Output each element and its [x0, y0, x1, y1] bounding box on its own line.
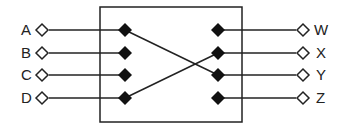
node-w-icon	[211, 23, 225, 37]
terminal-z-icon	[297, 92, 309, 104]
terminal-w-icon	[297, 24, 309, 36]
internal-left-nodes	[118, 23, 132, 105]
node-d-icon	[118, 91, 132, 105]
input-label-c: C	[21, 66, 32, 83]
output-label-z: Z	[316, 89, 325, 106]
node-b-icon	[118, 46, 132, 60]
output-label-y: Y	[316, 66, 326, 83]
terminal-b-icon	[36, 47, 48, 59]
internal-right-nodes	[211, 23, 225, 105]
input-wires	[49, 30, 125, 98]
cross-connections	[125, 30, 218, 98]
switch-box	[100, 7, 242, 122]
input-label-a: A	[21, 21, 31, 38]
terminal-c-icon	[36, 69, 48, 81]
node-a-icon	[118, 23, 132, 37]
output-wires	[218, 30, 296, 98]
terminal-y-icon	[297, 69, 309, 81]
terminal-x-icon	[297, 47, 309, 59]
output-label-x: X	[316, 44, 326, 61]
crossover-diagram: A B C D W X Y Z	[0, 0, 345, 128]
connection-d-to-x	[125, 53, 218, 98]
terminal-d-icon	[36, 92, 48, 104]
node-y-icon	[211, 68, 225, 82]
output-label-w: W	[314, 21, 329, 38]
output-terminals	[297, 24, 309, 104]
diagram-canvas: A B C D W X Y Z	[0, 0, 345, 128]
input-terminals	[36, 24, 48, 104]
input-label-d: D	[21, 89, 32, 106]
node-c-icon	[118, 68, 132, 82]
node-z-icon	[211, 91, 225, 105]
node-x-icon	[211, 46, 225, 60]
input-label-b: B	[21, 44, 31, 61]
connection-a-to-y	[125, 30, 218, 75]
terminal-a-icon	[36, 24, 48, 36]
